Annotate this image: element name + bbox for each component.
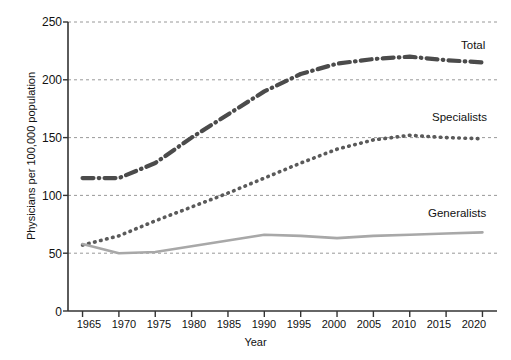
axis-lines: [68, 22, 497, 311]
series-line-specialists: [83, 135, 483, 245]
chart-plot-area: [0, 0, 511, 360]
chart-container: Physicians per 100,000 population Year 2…: [0, 0, 511, 360]
series-line-total: [83, 57, 483, 178]
series-line-generalists: [83, 232, 483, 253]
axis-ticks: [63, 22, 482, 317]
